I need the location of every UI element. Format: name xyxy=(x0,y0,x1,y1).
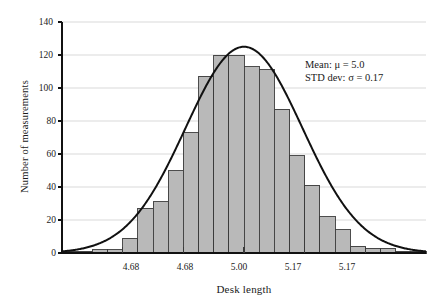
plot-canvas xyxy=(0,0,438,307)
histogram-figure: Number of measurements Desk length 0 20 … xyxy=(0,0,438,307)
